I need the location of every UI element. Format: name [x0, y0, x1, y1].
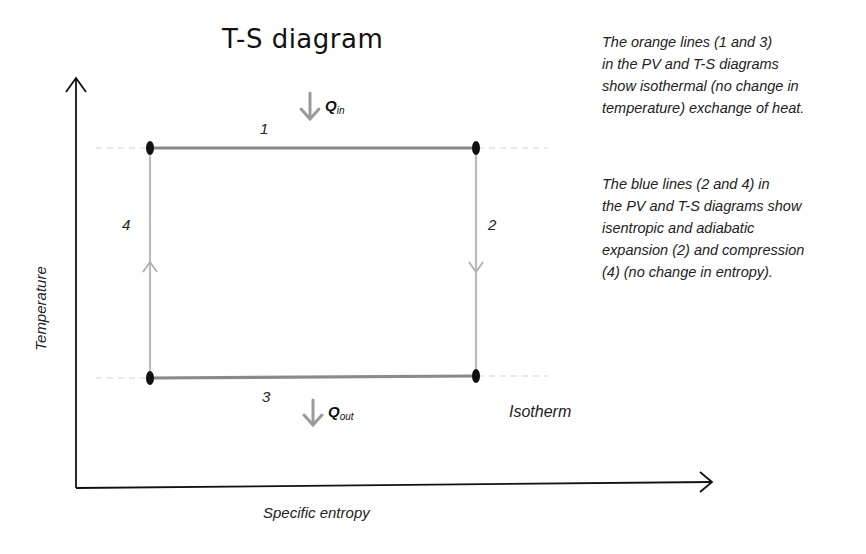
state-node: [472, 369, 480, 383]
q-in-arrow-icon: [301, 93, 319, 119]
state-node: [146, 141, 154, 155]
process-label-1: 1: [260, 120, 268, 137]
q-in-label: Qin: [325, 97, 344, 116]
note-blue-lines: The blue lines (2 and 4) in the PV and T…: [602, 173, 866, 283]
q-out-label: Qout: [328, 403, 354, 422]
x-axis: [76, 472, 712, 492]
y-axis: [66, 78, 86, 488]
y-axis-label: Temperature: [32, 249, 49, 369]
isotherm-label: Isotherm: [509, 403, 571, 421]
dashed-guides: [96, 148, 548, 378]
state-node: [146, 371, 154, 385]
process-line-3: [150, 376, 476, 378]
process-label-3: 3: [262, 388, 270, 405]
q-out-arrow-icon: [304, 400, 322, 425]
x-axis-label: Specific entropy: [263, 504, 370, 521]
state-nodes: [146, 141, 480, 385]
state-node: [472, 141, 480, 155]
process-label-2: 2: [488, 216, 496, 233]
note-orange-lines: The orange lines (1 and 3) in the PV and…: [602, 31, 866, 119]
process-label-4: 4: [122, 216, 130, 233]
